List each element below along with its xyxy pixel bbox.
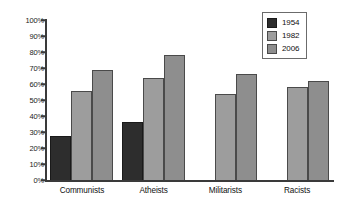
legend-label: 1982: [282, 31, 299, 40]
x-axis-labels: CommunistsAtheistsMilitaristsRacists: [46, 186, 333, 195]
x-axis-label: Communists: [46, 186, 118, 195]
legend: 195419822006: [262, 12, 307, 59]
bar-2006: [236, 74, 257, 180]
legend-swatch-icon: [267, 44, 277, 54]
bar-1982: [143, 78, 164, 180]
legend-item: 2006: [267, 42, 299, 55]
x-axis-line: [45, 180, 334, 182]
legend-label: 1954: [282, 18, 299, 27]
legend-swatch-icon: [267, 18, 277, 28]
legend-label: 2006: [282, 44, 299, 53]
bar-chart: 100%90%80%70%60%50%40%30%20%10%0% Commun…: [0, 0, 338, 207]
x-axis-label: Racists: [261, 186, 333, 195]
bar-1982: [215, 94, 236, 180]
x-axis-label: Militarists: [190, 186, 262, 195]
legend-item: 1954: [267, 16, 299, 29]
bar-1954: [122, 122, 143, 180]
bar-1982: [71, 91, 92, 180]
bar-2006: [308, 81, 329, 180]
legend-item: 1982: [267, 29, 299, 42]
bar-group: [46, 20, 118, 180]
bar-2006: [92, 70, 113, 180]
bar-2006: [164, 55, 185, 180]
bar-group: [118, 20, 190, 180]
bar-group: [190, 20, 262, 180]
bar-1982: [287, 87, 308, 180]
bar-1954: [50, 136, 71, 180]
x-axis-label: Atheists: [118, 186, 190, 195]
legend-swatch-icon: [267, 31, 277, 41]
